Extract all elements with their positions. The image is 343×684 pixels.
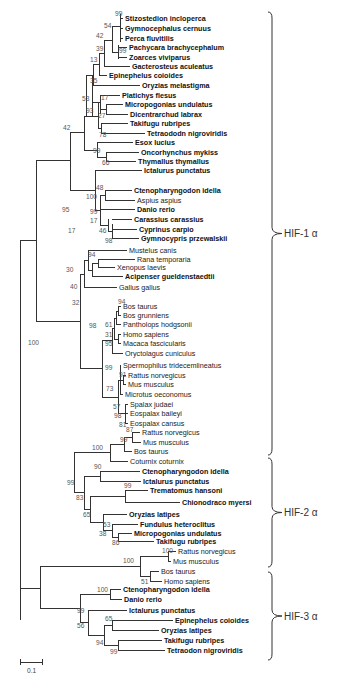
- bootstrap-value: 99: [90, 208, 98, 215]
- taxon-label: Cyprinus carpio: [139, 225, 194, 234]
- bootstrap-value: 99: [119, 47, 127, 54]
- bootstrap-value: 99: [124, 482, 132, 489]
- taxon-label: Spalax judaei: [130, 400, 174, 409]
- taxon-label: Pachycara brachycephalum: [129, 43, 224, 52]
- bootstrap-value: 46: [99, 227, 107, 234]
- bootstrap-value: 39: [96, 45, 104, 52]
- taxon-label: Stizostedion incloperca: [125, 14, 207, 23]
- bootstrap-value: 100: [162, 547, 173, 554]
- taxon-label: Micropogonias undulatus: [125, 100, 212, 109]
- taxon-label: Ictalurus punctatus: [129, 606, 195, 615]
- taxon-label: Tetraodon nigroviridis: [167, 646, 243, 655]
- bootstrap-value: 100: [123, 557, 134, 564]
- bootstrap-value: 17: [101, 94, 109, 101]
- taxon-label: Microtus oeconomus: [125, 390, 192, 399]
- bootstrap-value: 65: [83, 511, 91, 518]
- bootstrap-value: 95: [62, 206, 70, 213]
- bootstrap-value: 38: [99, 530, 107, 537]
- bootstrap-value: 48: [96, 184, 104, 191]
- bootstrap-value: 61: [105, 321, 113, 328]
- bootstrap-value: 54: [104, 22, 112, 29]
- bootstrap-value: 31: [105, 331, 113, 338]
- bootstrap-value: 100: [97, 586, 108, 593]
- taxon-label: Rattus norvegicus: [142, 428, 200, 437]
- taxon-label: Bos taurus: [161, 567, 196, 576]
- bootstrap-value: 17: [68, 227, 76, 234]
- taxon-label: Mus musculus: [128, 380, 174, 389]
- clade-brace: [268, 12, 282, 455]
- taxon-label: Thymallus thymallus: [138, 157, 209, 166]
- taxon-label: Oryzias latipes: [129, 510, 180, 519]
- taxon-label: Takifugu rubripes: [164, 636, 224, 645]
- bootstrap-value: 40: [70, 283, 78, 290]
- bootstrap-value: 32: [72, 299, 80, 306]
- taxon-label: Oryzias latipes: [161, 626, 212, 635]
- taxon-label: Epinephelus coioides: [109, 71, 183, 80]
- taxon-label: Trematomus hansoni: [150, 486, 222, 495]
- scale-bar-label: 0.1: [27, 667, 36, 674]
- bootstrap-value: 30: [66, 266, 74, 273]
- taxon-label: Acipenser gueldenstaedtii: [125, 272, 214, 281]
- bootstrap-value: 99: [115, 10, 123, 17]
- bootstrap-value: 100: [86, 193, 97, 200]
- taxon-label: Rattus norvegicus: [128, 371, 186, 380]
- bootstrap-value: 100: [92, 444, 103, 451]
- taxon-label: Danio rerio: [124, 595, 163, 604]
- taxon-label: Ctenopharyngodon idella: [142, 467, 230, 476]
- bootstrap-value: 94: [88, 251, 96, 258]
- taxon-label: Carassius carassius: [134, 215, 204, 224]
- taxon-label: Oryctolagus cuniculus: [125, 349, 196, 358]
- phylogenetic-tree: 9954429939133517532793784299664810099171…: [0, 0, 343, 684]
- bootstrap-value: 98: [89, 322, 97, 329]
- taxon-label: Ictalurus punctatus: [143, 477, 209, 486]
- taxon-label: Perca fluvitilis: [125, 34, 174, 43]
- taxon-label: Ictalurus punctatus: [144, 166, 210, 175]
- taxon-label: Eospalax cansus: [130, 419, 185, 428]
- bootstrap-value: 99: [120, 436, 128, 443]
- bootstrap-value: 57: [113, 403, 121, 410]
- taxon-label: Bos grunniens: [123, 311, 169, 320]
- bootstrap-value: 100: [28, 339, 39, 346]
- taxon-label: Bos taurus: [134, 447, 169, 456]
- bootstrap-value: 83: [76, 494, 84, 501]
- bootstrap-value: 42: [96, 32, 104, 39]
- bootstrap-value: 99: [110, 648, 118, 655]
- bootstrap-value: 91: [119, 371, 127, 378]
- clade-brace: [268, 458, 282, 567]
- bootstrap-value: 95: [105, 340, 113, 347]
- taxon-label: Mustelus canis: [129, 246, 177, 255]
- taxon-label: Esox lucius: [135, 138, 175, 147]
- taxon-label: Chionodraco myersi: [182, 498, 252, 507]
- scale-bar: 0.1: [20, 659, 42, 674]
- bootstrap-value: 17: [90, 217, 98, 224]
- taxon-label: Bos taurus: [123, 302, 158, 311]
- taxon-label: Gallus gallus: [119, 283, 161, 292]
- taxon-label: Ctenopharyngodon idella: [134, 186, 222, 195]
- taxon-label: Dicentrarchud labrax: [130, 110, 202, 119]
- taxon-label: Macaca fascicularis: [123, 339, 186, 348]
- bootstrap-value: 65: [105, 615, 113, 622]
- taxon-label: Zoarces viviparus: [129, 53, 190, 62]
- bootstrap-value: 42: [63, 124, 71, 131]
- taxon-label: Rattus norvegicus: [178, 547, 236, 556]
- bootstrap-value: 90: [94, 463, 102, 470]
- bootstrap-value: 66: [102, 159, 110, 166]
- taxon-label: Epinephelus coioides: [175, 616, 249, 625]
- bootstrap-value: 99: [67, 479, 75, 486]
- taxon-label: Oryzias melastigma: [142, 81, 211, 90]
- taxon-label: Platichys flesus: [122, 91, 176, 100]
- bootstrap-value: 98: [114, 412, 122, 419]
- taxon-label: Gymnocypris przewalskii: [141, 234, 227, 243]
- taxon-label: Tetraododn nigroviridis: [147, 129, 227, 138]
- bootstrap-value: 99: [93, 147, 101, 154]
- taxon-label: Oncorhynchus mykiss: [141, 148, 218, 157]
- clade-label: HIF-3 α: [284, 611, 318, 622]
- bootstrap-value: 53: [103, 521, 111, 528]
- taxon-label: Aspius aspius: [137, 196, 182, 205]
- taxon-label: Takifugu rubripes: [130, 119, 190, 128]
- taxon-label: Xenopus laevis: [117, 263, 166, 272]
- bootstrap-value: 53: [82, 95, 90, 102]
- taxon-label: Spermophilus tridecemlineatus: [123, 361, 222, 370]
- taxon-label: Takifugu rubripes: [156, 537, 216, 546]
- taxon-label: Mus musculus: [173, 557, 219, 566]
